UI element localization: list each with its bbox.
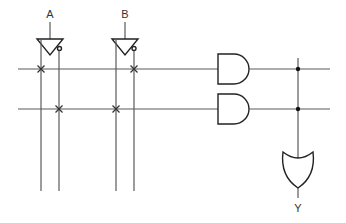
input-label-b: B — [121, 9, 128, 20]
input-label-a: A — [46, 9, 53, 20]
junction-dot-2 — [296, 107, 300, 111]
or-gate — [283, 152, 314, 188]
output-label-y: Y — [294, 203, 301, 214]
junction-dot-1 — [296, 67, 300, 71]
and-gate-1 — [218, 54, 249, 84]
logic-circuit-diagram — [0, 0, 346, 223]
and-gate-2 — [218, 94, 249, 124]
